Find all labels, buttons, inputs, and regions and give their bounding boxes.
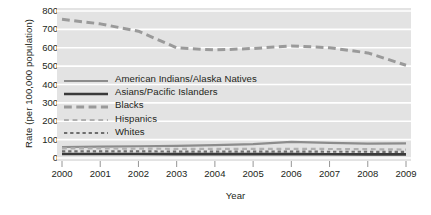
- legend-swatch-icon: [64, 73, 108, 85]
- series-line: [62, 142, 406, 147]
- legend-swatch-icon: [64, 99, 108, 111]
- legend-item: American Indians/Alaska Natives: [64, 72, 314, 85]
- x-axis-title: Year: [62, 190, 409, 201]
- y-axis-tick-label: 100: [28, 135, 58, 145]
- legend-swatch-icon: [64, 125, 108, 137]
- legend-label: Asians/Pacific Islanders: [115, 86, 218, 97]
- y-axis-tick-label: 800: [28, 6, 58, 16]
- y-axis-tick-label: 200: [28, 116, 58, 126]
- y-axis-tick-label: 500: [28, 61, 58, 71]
- y-axis-tick-label: 0: [28, 153, 58, 163]
- line-chart: Rate (per 100,000 population) 0100200300…: [0, 0, 431, 215]
- legend-item: Whites: [64, 125, 314, 138]
- legend-swatch-icon: [64, 112, 108, 124]
- y-axis-tick-label: 600: [28, 43, 58, 53]
- series-line: [62, 148, 406, 149]
- x-axis-tick-label: 2009: [384, 168, 428, 179]
- legend-item: Asians/Pacific Islanders: [64, 85, 314, 98]
- series-line: [62, 19, 406, 65]
- legend-swatch-icon: [64, 86, 108, 98]
- series-line: [62, 151, 406, 152]
- legend-label: Blacks: [115, 99, 144, 110]
- legend-label: Hispanics: [115, 113, 157, 124]
- y-axis-tick-label: 300: [28, 98, 58, 108]
- y-axis-tick-label: 400: [28, 80, 58, 90]
- legend-item: Blacks: [64, 98, 314, 111]
- legend-item: Hispanics: [64, 112, 314, 125]
- legend-label: American Indians/Alaska Natives: [115, 73, 257, 84]
- y-axis-tick-label: 700: [28, 24, 58, 34]
- chart-legend: American Indians/Alaska NativesAsians/Pa…: [64, 72, 314, 138]
- legend-label: Whites: [115, 126, 145, 137]
- x-axis-tick-labels: 2000200120022003200420052006200720082009: [0, 168, 431, 184]
